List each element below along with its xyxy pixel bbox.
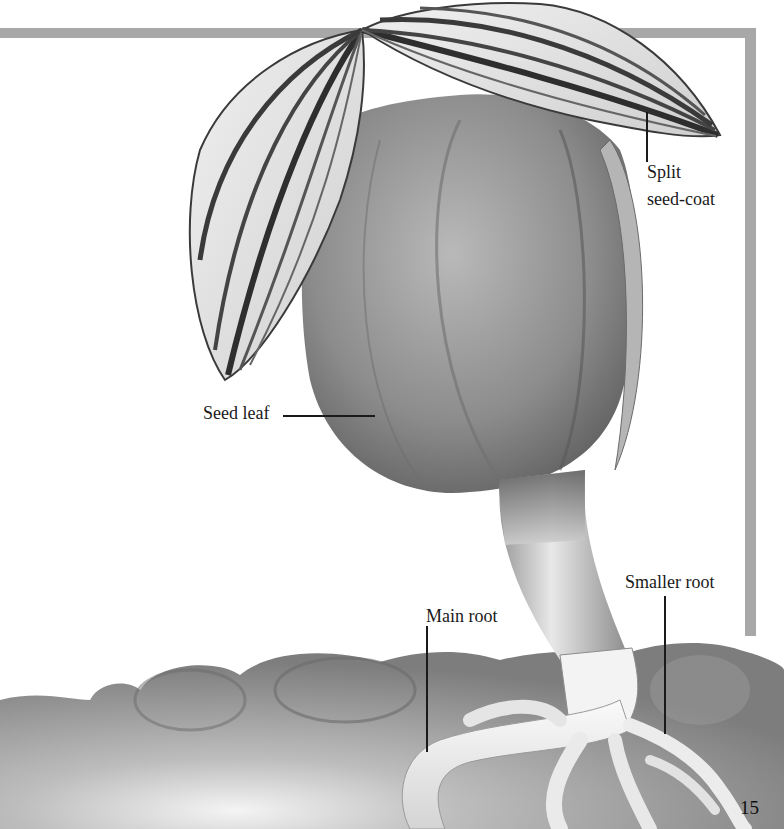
split-seed-coat-leader-line xyxy=(646,112,648,162)
book-page: Split seed-coat Seed leaf Smaller root M… xyxy=(0,0,784,829)
split-seed-coat-label-line1: Split xyxy=(647,160,681,184)
seed-leaf-leader-line xyxy=(283,415,375,417)
page-number: 15 xyxy=(740,797,759,819)
smaller-root-leader-line xyxy=(664,596,666,734)
main-root-label: Main root xyxy=(426,604,498,628)
seed-leaf-label: Seed leaf xyxy=(203,401,269,425)
smaller-root-label: Smaller root xyxy=(625,570,714,594)
seed-illustration xyxy=(0,0,784,829)
split-seed-coat-label-line2: seed-coat xyxy=(647,187,715,211)
main-root-leader-line xyxy=(426,626,428,752)
